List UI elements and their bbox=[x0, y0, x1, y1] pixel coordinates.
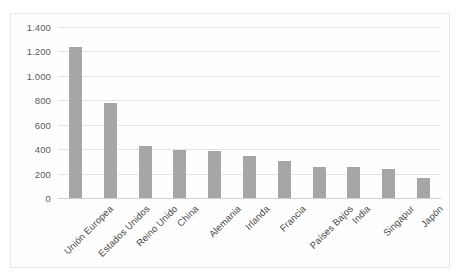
bar[interactable] bbox=[347, 167, 360, 198]
y-axis-tick-label: 200 bbox=[35, 168, 51, 179]
bar-slot bbox=[128, 27, 163, 198]
bar-slot bbox=[337, 27, 372, 198]
x-axis-label-slot: Japón bbox=[406, 199, 441, 267]
bar[interactable] bbox=[208, 151, 221, 198]
x-axis-label-slot: Singapur bbox=[371, 199, 406, 267]
y-axis-tick-label: 1.200 bbox=[27, 46, 51, 57]
bar[interactable] bbox=[139, 146, 152, 198]
x-axis-label-slot: Reino Unido bbox=[128, 199, 163, 267]
bar-slot bbox=[162, 27, 197, 198]
chart-container: 02004006008001.0001.2001.400 Unión Europ… bbox=[10, 13, 450, 268]
y-axis-tick-label: 800 bbox=[35, 95, 51, 106]
bar-slot bbox=[93, 27, 128, 198]
bar-slot bbox=[371, 27, 406, 198]
bar-slot bbox=[232, 27, 267, 198]
bar[interactable] bbox=[104, 103, 117, 198]
x-axis-label-slot: India bbox=[337, 199, 372, 267]
y-axis-tick-label: 0 bbox=[46, 193, 51, 204]
y-axis-tick-label: 1.000 bbox=[27, 70, 51, 81]
x-axis-label-slot: China bbox=[162, 199, 197, 267]
x-axis-tick-label: Japón bbox=[418, 203, 444, 229]
bar-slot bbox=[267, 27, 302, 198]
bar[interactable] bbox=[243, 156, 256, 198]
y-axis-tick-label: 1.400 bbox=[27, 22, 51, 33]
bar[interactable] bbox=[69, 47, 82, 198]
bar-slot bbox=[58, 27, 93, 198]
bar[interactable] bbox=[417, 178, 430, 198]
x-axis-label-slot: Estados Unidos bbox=[93, 199, 128, 267]
bar-slot bbox=[406, 27, 441, 198]
x-axis-label-slot: Francia bbox=[267, 199, 302, 267]
x-axis-label-slot: Unión Europea bbox=[58, 199, 93, 267]
x-axis-labels: Unión EuropeaEstados UnidosReino UnidoCh… bbox=[58, 199, 441, 267]
x-axis-label-slot: Países Bajos bbox=[302, 199, 337, 267]
bar-slot bbox=[197, 27, 232, 198]
y-axis-tick-label: 400 bbox=[35, 144, 51, 155]
plot-area: 02004006008001.0001.2001.400 bbox=[58, 27, 441, 198]
bar[interactable] bbox=[278, 161, 291, 198]
bar[interactable] bbox=[313, 167, 326, 198]
x-axis-label-slot: Irlanda bbox=[232, 199, 267, 267]
x-axis-label-slot: Alemania bbox=[197, 199, 232, 267]
bar[interactable] bbox=[173, 150, 186, 198]
x-axis-tick-label: India bbox=[350, 203, 373, 226]
bar-series bbox=[58, 27, 441, 198]
bar[interactable] bbox=[382, 169, 395, 198]
y-axis-tick-label: 600 bbox=[35, 119, 51, 130]
bar-slot bbox=[302, 27, 337, 198]
